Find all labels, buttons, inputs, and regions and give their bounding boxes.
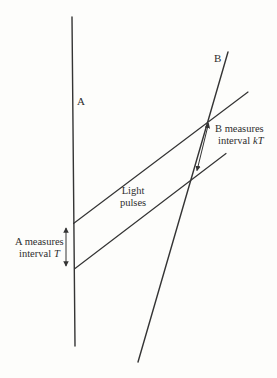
worldline-a — [72, 17, 75, 346]
a-measures-label: A measures intervalT — [15, 236, 64, 260]
b-interval-value: kT — [253, 135, 264, 146]
a-interval-value: T — [54, 248, 60, 259]
observer-a-label: A — [77, 95, 85, 107]
light-pulse-lower — [75, 154, 226, 269]
observer-b-label: B — [214, 52, 221, 64]
spacetime-diagram: A B Light pulses B measures intervalkT A… — [0, 0, 277, 378]
light-pulses-label-line2: pulses — [106, 197, 160, 209]
b-measures-label: B measures intervalkT — [215, 123, 264, 147]
light-pulses-label-line1: Light — [106, 185, 160, 197]
light-pulses-label: Light pulses — [106, 185, 160, 209]
a-measures-label-line2: interval — [19, 248, 51, 259]
interval-kt-arrow — [197, 124, 209, 171]
b-measures-label-line2: interval — [218, 135, 250, 146]
b-measures-label-line1: B measures — [215, 123, 264, 134]
a-measures-label-line1: A measures — [15, 236, 64, 247]
